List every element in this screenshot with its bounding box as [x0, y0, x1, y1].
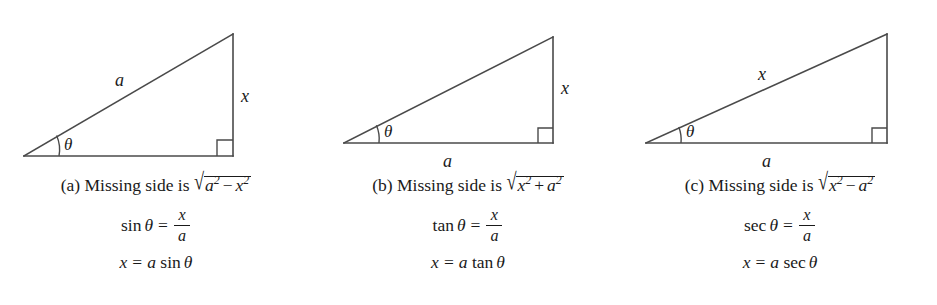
- radical-second-exponent-b: 2: [556, 173, 562, 187]
- solved-angle-b: θ: [496, 252, 505, 272]
- caption-line-solved-b: x=a tanθ: [312, 252, 624, 280]
- caption-b: (b) Missing side is √x2+a2 tanθ=xa x=a t…: [312, 176, 624, 280]
- triangle-diagram-b: θ x a: [312, 14, 624, 179]
- radical-operator-a: −: [220, 175, 236, 195]
- caption-line-solved-a: x=a sinθ: [0, 252, 312, 280]
- radical-second-exponent-c: 2: [867, 173, 873, 187]
- caption-line-missing-side-a: (a) Missing side is √a2−x2: [0, 176, 312, 202]
- solved-equals-a: =: [127, 252, 147, 272]
- hypotenuse-label-c: x: [757, 64, 766, 84]
- caption-line-solved-c: x=a secθ: [624, 252, 936, 280]
- angle-arc-b: [376, 125, 379, 143]
- vertical-label-b: x: [560, 78, 569, 98]
- angle-arc-a: [57, 136, 60, 157]
- radical-sign-b: √: [506, 170, 516, 194]
- solved-coefficient-b: a: [459, 252, 468, 272]
- caption-a: (a) Missing side is √a2−x2 sinθ=xa x=a s…: [0, 176, 312, 280]
- ratio-angle-b: θ: [457, 215, 466, 235]
- radical-expression-a: √a2−x2: [194, 176, 251, 195]
- triangle-outline-a: [24, 34, 233, 156]
- angle-label-c: θ: [686, 122, 694, 141]
- radical-second-exponent-a: 2: [243, 173, 249, 187]
- radical-sign-c: √: [818, 170, 828, 194]
- ratio-numerator-c: x: [799, 207, 815, 225]
- ratio-equals-c: =: [778, 215, 798, 235]
- ratio-equals-b: =: [466, 215, 486, 235]
- panel-letter-c: (c): [685, 175, 704, 195]
- panel-a: θ a x (a) Missing side is √a2−x2 sinθ=xa…: [0, 0, 312, 305]
- solved-coefficient-a: a: [147, 252, 156, 272]
- solved-equals-b: =: [439, 252, 459, 272]
- ratio-fraction-c: xa: [799, 207, 815, 245]
- ratio-angle-a: θ: [144, 215, 153, 235]
- angle-label-b: θ: [384, 122, 392, 141]
- triangle-diagram-a: θ a x: [0, 14, 312, 179]
- triangle-outline-c: [646, 34, 887, 143]
- triangle-diagram-c: θ x a: [624, 14, 936, 179]
- radical-expression-c: √x2−a2: [818, 176, 875, 195]
- vertical-label-a: x: [240, 86, 249, 106]
- caption-line-missing-side-c: (c) Missing side is √x2−a2: [624, 176, 936, 202]
- solved-function-b: tan: [472, 252, 496, 272]
- solved-function-c: sec: [783, 252, 808, 272]
- radical-expression-b: √x2+a2: [506, 176, 563, 195]
- panel-letter-b: (b): [372, 175, 392, 195]
- panel-c: θ x a (c) Missing side is √x2−a2 secθ=xa…: [624, 0, 936, 305]
- radical-first-exponent-a: 2: [214, 173, 220, 187]
- radical-body-c: x2−a2: [828, 176, 875, 195]
- radical-operator-c: −: [843, 175, 859, 195]
- caption-c: (c) Missing side is √x2−a2 secθ=xa x=a s…: [624, 176, 936, 280]
- panel-letter-a: (a): [61, 175, 80, 195]
- angle-arc-c: [679, 127, 681, 143]
- caption-line-ratio-b: tanθ=xa: [312, 202, 624, 252]
- caption-line-ratio-c: secθ=xa: [624, 202, 936, 252]
- radical-sign-a: √: [194, 170, 204, 194]
- caption-line-missing-side-b: (b) Missing side is √x2+a2: [312, 176, 624, 202]
- triangle-outline-b: [344, 37, 553, 143]
- ratio-denominator-c: a: [799, 226, 815, 246]
- ratio-denominator-a: a: [174, 226, 190, 246]
- solved-angle-c: θ: [809, 252, 818, 272]
- caption-line-ratio-a: sinθ=xa: [0, 202, 312, 252]
- solved-function-a: sin: [160, 252, 183, 272]
- ratio-function-a: sin: [121, 215, 144, 235]
- ratio-function-b: tan: [433, 215, 457, 235]
- radical-first-term-a: a: [205, 175, 214, 195]
- solved-angle-a: θ: [184, 252, 193, 272]
- right-angle-marker-c: [872, 128, 887, 143]
- ratio-function-c: sec: [744, 215, 769, 235]
- angle-label-a: θ: [64, 135, 72, 154]
- radical-body-a: a2−x2: [204, 176, 251, 195]
- solved-left-b: x: [431, 252, 439, 272]
- panel-b: θ x a (b) Missing side is √x2+a2 tanθ=xa…: [312, 0, 624, 305]
- caption-prefix-c: Missing side is: [709, 175, 814, 195]
- radical-second-term-b: a: [547, 175, 556, 195]
- solved-coefficient-c: a: [770, 252, 779, 272]
- radical-operator-b: +: [531, 175, 547, 195]
- ratio-angle-c: θ: [769, 215, 778, 235]
- caption-prefix-b: Missing side is: [397, 175, 502, 195]
- base-label-c: a: [762, 151, 771, 171]
- trig-substitution-figure: θ a x (a) Missing side is √a2−x2 sinθ=xa…: [0, 0, 937, 305]
- ratio-equals-a: =: [153, 215, 173, 235]
- caption-prefix-a: Missing side is: [85, 175, 190, 195]
- ratio-numerator-a: x: [174, 207, 190, 225]
- right-angle-marker-b: [538, 128, 553, 143]
- ratio-fraction-b: xa: [486, 207, 502, 245]
- solved-equals-c: =: [750, 252, 770, 272]
- radical-first-term-c: x: [829, 175, 837, 195]
- ratio-fraction-a: xa: [174, 207, 190, 245]
- radical-body-b: x2+a2: [516, 176, 563, 195]
- ratio-denominator-b: a: [486, 226, 502, 246]
- base-label-b: a: [443, 151, 452, 171]
- hypotenuse-label-a: a: [115, 70, 124, 90]
- right-angle-marker-a: [217, 140, 233, 156]
- ratio-numerator-b: x: [486, 207, 502, 225]
- radical-first-exponent-c: 2: [837, 173, 843, 187]
